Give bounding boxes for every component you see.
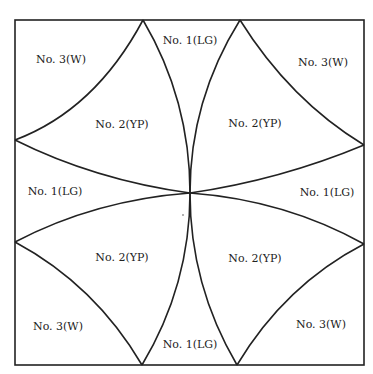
quilt-block-diagram: No. 3(W) No. 1(LG) No. 3(W) No. 2(YP) No… bbox=[0, 0, 373, 374]
arc-bl-upper bbox=[15, 193, 190, 242]
label-bottom-right-yellow-print: No. 2(YP) bbox=[228, 252, 281, 265]
label-top-left-yellow-print: No. 2(YP) bbox=[95, 118, 148, 131]
arc-br-upper bbox=[190, 193, 364, 244]
center-dot bbox=[182, 214, 184, 216]
label-bottom-left-white: No. 3(W) bbox=[33, 320, 83, 333]
label-bottom-left-yellow-print: No. 2(YP) bbox=[95, 251, 148, 264]
label-top-right-yellow-print: No. 2(YP) bbox=[228, 117, 281, 130]
label-bottom-right-white: No. 3(W) bbox=[296, 318, 346, 331]
label-bottom-light-green: No. 1(LG) bbox=[163, 338, 218, 351]
label-top-light-green: No. 1(LG) bbox=[163, 34, 218, 47]
label-top-left-white: No. 3(W) bbox=[36, 53, 86, 66]
label-left-light-green: No. 1(LG) bbox=[28, 185, 83, 198]
label-top-right-white: No. 3(W) bbox=[298, 56, 348, 69]
label-right-light-green: No. 1(LG) bbox=[300, 186, 355, 199]
